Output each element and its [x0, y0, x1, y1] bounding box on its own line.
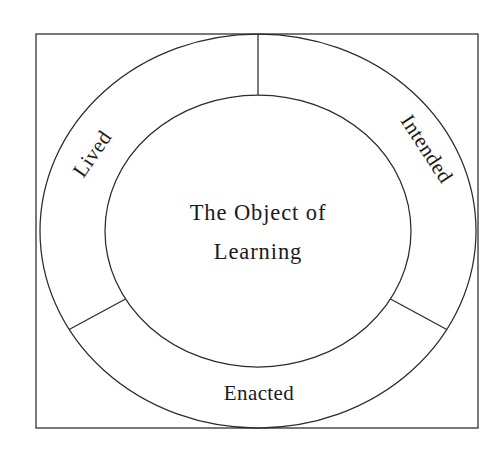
inner-ring-circle — [105, 95, 411, 367]
segment-label-intended: Intended — [396, 110, 458, 187]
ring-diagram: Intended Lived Enacted The Object of Lea… — [0, 0, 503, 456]
center-title-line-1: The Object of — [190, 200, 327, 225]
segment-divider-lower-right — [391, 299, 447, 330]
segment-label-enacted: Enacted — [224, 381, 295, 405]
center-title-line-2: Learning — [214, 239, 302, 264]
segment-divider-lower-left — [69, 299, 125, 330]
object-of-learning-figure: Intended Lived Enacted The Object of Lea… — [0, 0, 503, 456]
segment-label-lived: Lived — [68, 126, 117, 182]
